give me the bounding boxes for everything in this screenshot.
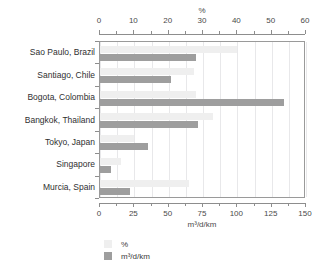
bottom-axis-tick xyxy=(116,203,117,206)
top-axis-tick xyxy=(202,30,203,34)
top-axis-tick xyxy=(185,31,186,34)
bottom-axis-tick xyxy=(168,203,169,207)
top-axis-tick xyxy=(133,30,134,34)
category-tick xyxy=(95,198,99,199)
bar-volume xyxy=(100,76,171,83)
top-axis-tick-label: 30 xyxy=(198,16,207,25)
legend-item-pct: % xyxy=(104,238,150,250)
bar-pct xyxy=(100,180,189,187)
bottom-axis-tick xyxy=(219,203,220,206)
category-label: Bangkok, Thailand xyxy=(0,115,95,125)
legend-label-pct: % xyxy=(121,240,128,249)
top-axis-tick xyxy=(151,31,152,34)
legend-item-volume: m³/d/km xyxy=(104,250,150,262)
top-axis-tick-label: 10 xyxy=(129,16,138,25)
category-tick xyxy=(95,176,99,177)
bottom-axis-tick xyxy=(133,203,134,207)
category-tick xyxy=(95,153,99,154)
gridline xyxy=(272,42,273,197)
bottom-axis-tick xyxy=(185,203,186,206)
bar-pct xyxy=(100,46,237,53)
bar-pct xyxy=(100,91,196,98)
category-tick xyxy=(95,63,99,64)
top-axis-tick-label: 60 xyxy=(301,16,310,25)
bar-volume xyxy=(100,54,196,61)
legend-label-volume: m³/d/km xyxy=(121,252,150,261)
gridline xyxy=(306,42,307,197)
bottom-axis-tick-label: 125 xyxy=(264,209,277,218)
bottom-axis-tick xyxy=(305,203,306,207)
bar-pct xyxy=(100,135,134,142)
bottom-axis-tick xyxy=(288,203,289,206)
bottom-axis-tick xyxy=(236,203,237,207)
bottom-axis-tick xyxy=(99,203,100,207)
legend-swatch-pct xyxy=(104,240,112,248)
gridline xyxy=(255,42,256,197)
bottom-axis-tick-label: 50 xyxy=(163,209,172,218)
category-label: Sao Paulo, Brazil xyxy=(0,47,95,57)
bar-volume xyxy=(100,143,148,150)
top-axis-tick xyxy=(116,31,117,34)
bar-volume xyxy=(100,121,198,128)
bar-volume xyxy=(100,188,130,195)
bottom-axis-tick-label: 100 xyxy=(230,209,243,218)
top-axis-tick-label: 20 xyxy=(163,16,172,25)
top-axis-tick-label: 40 xyxy=(232,16,241,25)
plot-area xyxy=(99,41,305,198)
top-axis-tick xyxy=(288,31,289,34)
top-axis-tick-label: 50 xyxy=(266,16,275,25)
gridline xyxy=(220,42,221,197)
top-axis-tick xyxy=(305,30,306,34)
top-axis-tick-label: 0 xyxy=(97,16,101,25)
category-label: Santiago, Chile xyxy=(0,70,95,80)
bottom-axis-tick-label: 150 xyxy=(298,209,311,218)
top-axis-tick xyxy=(168,30,169,34)
category-label: Murcia, Spain xyxy=(0,182,95,192)
top-axis-tick xyxy=(254,31,255,34)
bottom-axis-tick-label: 0 xyxy=(97,209,101,218)
top-axis: 0102030405060 xyxy=(99,34,305,35)
gridline xyxy=(237,42,238,197)
bottom-axis: 0255075100125150 xyxy=(99,203,305,204)
bar-volume xyxy=(100,166,111,173)
category-tick xyxy=(95,86,99,87)
legend-swatch-volume xyxy=(104,252,112,260)
bottom-axis-title: m³/d/km xyxy=(99,220,305,229)
top-axis-tick xyxy=(219,31,220,34)
category-tick xyxy=(95,108,99,109)
bar-pct xyxy=(100,158,121,165)
bottom-axis-tick xyxy=(151,203,152,206)
bottom-axis-tick xyxy=(202,203,203,207)
gridline xyxy=(289,42,290,197)
top-axis-tick xyxy=(99,30,100,34)
bottom-axis-tick xyxy=(271,203,272,207)
bar-pct xyxy=(100,113,213,120)
category-tick xyxy=(95,131,99,132)
category-label: Tokyo, Japan xyxy=(0,137,95,147)
category-tick xyxy=(95,41,99,42)
category-label: Bogota, Colombia xyxy=(0,92,95,102)
bottom-axis-tick-label: 75 xyxy=(198,209,207,218)
category-label: Singapore xyxy=(0,159,95,169)
chart-legend: % m³/d/km xyxy=(104,238,150,262)
bottom-axis-tick-label: 25 xyxy=(129,209,138,218)
top-axis-tick xyxy=(236,30,237,34)
top-axis-tick xyxy=(271,30,272,34)
bar-chart: % 0102030405060 Sao Paulo, BrazilSantiag… xyxy=(0,0,331,277)
bar-pct xyxy=(100,68,194,75)
top-axis-title: % xyxy=(99,6,305,15)
bottom-axis-tick xyxy=(254,203,255,206)
bar-volume xyxy=(100,99,284,106)
